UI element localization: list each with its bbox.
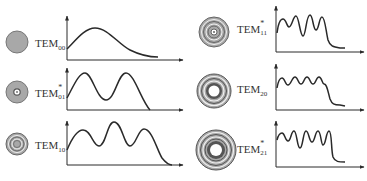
pattern-tem21-star-icon bbox=[196, 130, 236, 170]
graph-tem00 bbox=[67, 16, 183, 60]
graph-tem01-star bbox=[67, 68, 183, 110]
pattern-tem10-icon bbox=[6, 133, 28, 155]
graph-tem20 bbox=[276, 64, 364, 110]
pattern-tem01-star-icon bbox=[6, 81, 28, 103]
graph-tem21-star bbox=[276, 121, 364, 167]
graph-tem11-star bbox=[276, 6, 364, 52]
tem-modes-figure bbox=[0, 0, 367, 181]
pattern-tem11-star-icon bbox=[199, 17, 229, 47]
pattern-tem00-icon bbox=[6, 31, 28, 53]
graph-tem10 bbox=[67, 121, 183, 165]
pattern-tem20-icon bbox=[197, 74, 231, 108]
